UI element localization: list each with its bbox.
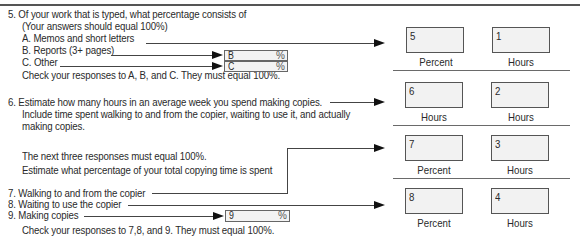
q5-option-b: B. Reports (3+ pages) [22,44,114,56]
field-code: B [228,51,234,61]
row-divider [393,178,570,179]
caption-hours: Hours [495,111,548,123]
caption-percent: Percent [408,217,461,229]
intro-line-2: Estimate what percentage of your total c… [22,164,272,176]
q6-connector-line [330,102,378,103]
q5-title: 5. Of your work that is typed, what perc… [8,8,246,20]
q5b-input[interactable]: B % [224,50,288,61]
field-code: 6 [409,85,414,97]
q5a-connector-line [146,43,380,44]
field-code: 3 [495,138,500,150]
caption-hours: Hours [495,56,548,68]
q5-option-a: A. Memos and short letters [22,32,134,44]
field-code: 9 [229,211,234,221]
q6-line-3: making copies. [22,120,85,132]
q6-line-2: Include time spent walking to and from t… [22,108,350,120]
arrow-right-icon [212,62,223,70]
q7-connector-vertical [287,148,288,194]
caption-hours: Hours [494,164,547,176]
answer-box-2[interactable]: 2 [491,82,549,108]
answer-box-3[interactable]: 3 [491,135,549,161]
q5c-input[interactable]: C % [224,61,288,72]
arrow-right-icon [212,51,223,59]
row-divider [393,125,570,126]
arrow-right-icon [213,212,224,220]
field-code: 8 [409,191,414,203]
field-code: 4 [495,191,500,203]
q9-input[interactable]: 9 % [225,210,290,222]
caption-percent: Percent [408,164,461,176]
answer-box-4[interactable]: 4 [491,188,549,214]
q9-connector-line [84,216,216,217]
q5-option-c: C. Other [22,56,58,68]
intro-line-1: The next three responses must equal 100%… [22,150,207,162]
q8-connector-line [128,205,378,206]
q5c-connector-line [60,66,215,67]
row-divider [393,70,570,71]
answer-box-8[interactable]: 8 [405,188,463,214]
percent-sign: % [276,51,285,61]
q789-check-note: Check your responses to 7,8, and 9. They… [22,224,274,236]
q7-connector-top [287,148,377,149]
arrow-right-icon [374,144,385,152]
answer-box-1[interactable]: 1 [492,27,550,53]
arrow-right-icon [374,39,385,47]
field-code: 7 [409,138,414,150]
percent-sign: % [278,211,287,221]
q5-subtitle: (Your answers should equal 100%) [22,20,168,32]
percent-sign: % [276,62,285,72]
answer-box-7[interactable]: 7 [405,135,463,161]
caption-hours: Hours [494,217,547,229]
caption-hours: Hours [408,111,461,123]
q9-label: 9. Making copies [8,209,79,221]
field-code: C [228,62,234,72]
field-code: 5 [410,30,415,42]
q5b-connector-line [111,55,215,56]
arrow-right-icon [374,98,385,106]
answer-box-6[interactable]: 6 [405,82,463,108]
caption-percent: Percent [410,56,463,68]
q7-connector-line [152,193,287,194]
answer-box-5[interactable]: 5 [406,27,464,53]
q6-line-1: 6. Estimate how many hours in an average… [8,96,322,108]
field-code: 2 [495,85,500,97]
top-rule [0,4,580,6]
field-code: 1 [496,30,501,42]
arrow-right-icon [374,201,385,209]
